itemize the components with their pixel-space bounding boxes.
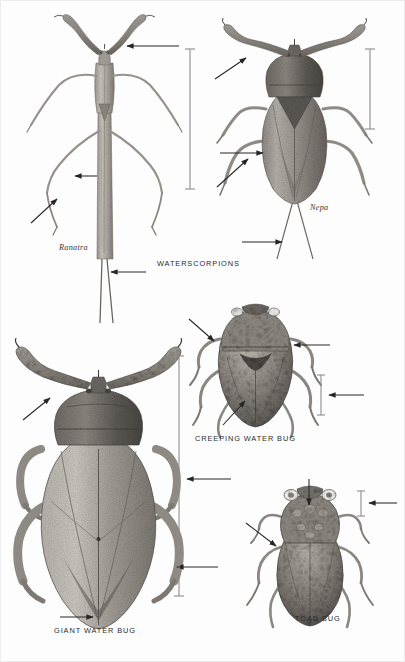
label-ranatra: Ranatra [59, 243, 88, 252]
illustration-plate: Ranatra Nepa WATERSCORPIONS CREEPING WAT… [0, 0, 405, 662]
label-creeping-water-bug: CREEPING WATER BUG [195, 434, 296, 443]
label-toad-bug: TOAD BUG [295, 614, 341, 623]
label-nepa: Nepa [310, 203, 328, 212]
label-waterscorpions: WATERSCORPIONS [157, 259, 240, 268]
label-giant-water-bug: GIANT WATER BUG [54, 626, 136, 635]
plate-artwork [1, 1, 405, 662]
